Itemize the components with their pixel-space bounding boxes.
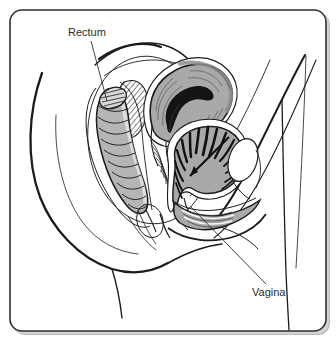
vagina-label: Vagina xyxy=(252,286,286,298)
rectum-label: Rectum xyxy=(68,26,106,38)
pelvic-anatomy-illustration: Rectum Vagina xyxy=(0,0,336,345)
illustration-figure: Rectum Vagina xyxy=(0,0,336,345)
